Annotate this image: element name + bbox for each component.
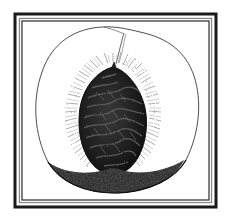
illustration-canvas: peach cross-section with pit [0,0,227,219]
peach-illustration [0,0,227,219]
